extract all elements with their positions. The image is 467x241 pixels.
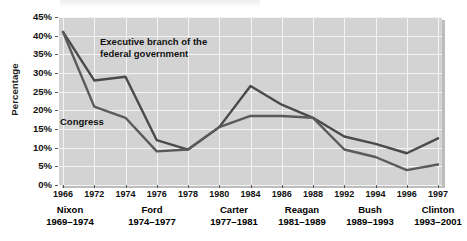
- series-label-congress: Congress: [60, 116, 104, 128]
- x-tick-mark: [438, 185, 439, 188]
- y-tick-mark: [55, 185, 58, 186]
- x-tick-mark: [407, 185, 408, 188]
- x-tick-mark: [188, 185, 189, 188]
- x-tick-mark: [376, 185, 377, 188]
- series-label-executive: Executive branch of the federal governme…: [100, 36, 207, 59]
- y-tick-mark: [55, 148, 58, 149]
- y-tick-mark: [55, 110, 58, 111]
- x-tick-label: 1997: [418, 189, 458, 199]
- y-tick-mark: [55, 129, 58, 130]
- x-tick-mark: [313, 185, 314, 188]
- y-axis-title: Percentage: [9, 50, 20, 130]
- x-tick-mark: [126, 185, 127, 188]
- y-tick-mark: [55, 36, 58, 37]
- y-tick-mark: [55, 73, 58, 74]
- x-tick-mark: [63, 185, 64, 188]
- y-tick-label: 10%: [8, 142, 52, 153]
- y-tick-mark: [55, 54, 58, 55]
- y-tick-mark: [55, 17, 58, 18]
- president-label-clinton: Clinton1993–2001: [390, 204, 467, 228]
- x-tick-mark: [157, 185, 158, 188]
- president-years: 1993–2001: [390, 216, 467, 228]
- y-tick-label: 40%: [8, 30, 52, 41]
- x-tick-mark: [219, 185, 220, 188]
- y-tick-mark: [55, 166, 58, 167]
- x-tick-mark: [94, 185, 95, 188]
- x-tick-mark: [251, 185, 252, 188]
- y-tick-label: 5%: [8, 160, 52, 171]
- x-tick-mark: [344, 185, 345, 188]
- president-name: Clinton: [390, 204, 467, 216]
- y-tick-mark: [55, 92, 58, 93]
- cropped-title-sliver: [60, 0, 260, 7]
- x-tick-mark: [282, 185, 283, 188]
- y-tick-label: 45%: [8, 11, 52, 22]
